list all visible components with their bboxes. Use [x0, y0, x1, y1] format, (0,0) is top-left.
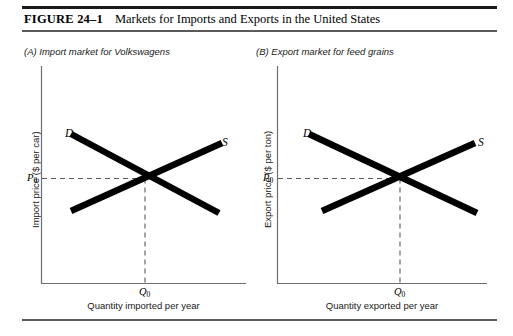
panel-a-curves [71, 134, 222, 213]
plot-layer [0, 0, 513, 336]
panel-b-guides [278, 179, 400, 284]
panel-b-axes [278, 66, 488, 284]
panel-a-guides [42, 179, 145, 284]
panel-b-curves [309, 134, 477, 213]
footer-rule [22, 319, 497, 321]
panel-b-axis-lines [278, 66, 488, 284]
panel-b-demand-curve [309, 134, 477, 213]
figure-container: FIGURE 24–1 Markets for Imports and Expo… [0, 0, 513, 336]
